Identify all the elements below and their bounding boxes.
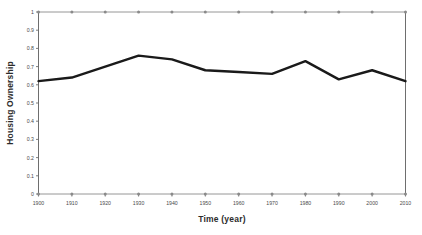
upper-reference-marker [371, 11, 374, 14]
x-tick-label: 2010 [400, 200, 412, 206]
upper-reference-marker [104, 11, 107, 14]
y-tick-label: 0.4 [27, 118, 34, 124]
x-tick-label: 1960 [233, 200, 245, 206]
y-tick-label: 0.8 [27, 45, 34, 51]
lower-reference-marker [204, 193, 207, 196]
upper-reference-marker [37, 11, 40, 14]
x-axis-title: Time (year) [198, 214, 245, 224]
lower-reference-marker [170, 193, 173, 196]
x-tick-label: 1980 [300, 200, 312, 206]
lower-reference-marker [70, 193, 73, 196]
y-tick-label: 0.9 [27, 27, 34, 33]
lower-reference-marker [304, 193, 307, 196]
lower-reference-marker [371, 193, 374, 196]
lower-reference-marker [104, 193, 107, 196]
chart-figure: 00.10.20.30.40.50.60.70.80.91 1900191019… [0, 0, 422, 235]
y-tick-label: 0.5 [27, 100, 34, 106]
upper-reference-marker [271, 11, 274, 14]
x-tick-label: 1900 [33, 200, 45, 206]
lower-reference-marker [37, 193, 40, 196]
lower-reference-marker [337, 193, 340, 196]
x-tick-label: 1990 [333, 200, 345, 206]
x-tick-label: 1920 [99, 200, 111, 206]
upper-reference-marker [337, 11, 340, 14]
y-tick-label: 1 [31, 9, 34, 15]
upper-reference-marker [204, 11, 207, 14]
x-tick-label: 1940 [166, 200, 178, 206]
y-tick-label: 0.7 [27, 64, 34, 70]
y-tick-label: 0.6 [27, 82, 34, 88]
x-tick-label: 1950 [200, 200, 212, 206]
y-tick-label: 0.3 [27, 136, 34, 142]
lower-reference-marker [404, 193, 407, 196]
upper-reference-marker [170, 11, 173, 14]
y-tick-label: 0 [31, 191, 34, 197]
x-tick-label: 1970 [266, 200, 278, 206]
y-tick-label: 0.1 [27, 173, 34, 179]
x-tick-label: 1930 [133, 200, 145, 206]
upper-reference-marker [70, 11, 73, 14]
lower-reference-marker [237, 193, 240, 196]
upper-reference-marker [137, 11, 140, 14]
lower-reference-marker [271, 193, 274, 196]
x-tick-label: 2000 [366, 200, 378, 206]
y-axis-title: Housing Ownership [5, 61, 15, 145]
upper-reference-marker [237, 11, 240, 14]
lower-reference-marker [137, 193, 140, 196]
x-tick-label: 1910 [66, 200, 78, 206]
line-chart: 00.10.20.30.40.50.60.70.80.91 1900191019… [0, 0, 422, 235]
upper-reference-marker [304, 11, 307, 14]
upper-reference-marker [404, 11, 407, 14]
y-tick-label: 0.2 [27, 155, 34, 161]
